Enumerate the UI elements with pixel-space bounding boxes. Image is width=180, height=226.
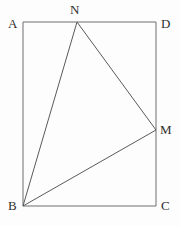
geometry-figure: A N D M B C [0,0,180,226]
vertex-label-m: M [160,123,172,136]
vertex-label-d: D [161,17,170,30]
segment-bm [23,130,156,206]
segment-nm [77,22,156,130]
vertex-label-a: A [8,17,17,30]
vertex-label-n: N [70,3,79,16]
figure-canvas [0,0,180,226]
segment-bn [23,22,77,206]
vertex-label-c: C [161,199,170,212]
vertex-label-b: B [8,199,17,212]
